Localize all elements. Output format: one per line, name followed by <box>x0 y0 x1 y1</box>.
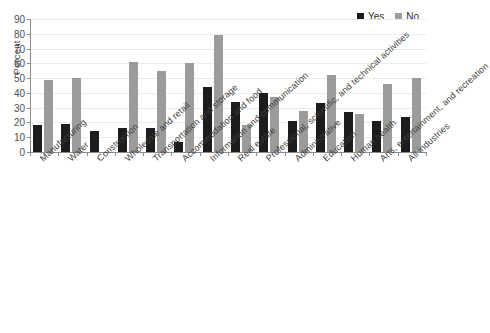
y-axis-tick-label: 0 <box>19 147 25 158</box>
y-axis-tick-label: 90 <box>14 14 25 25</box>
bar-no <box>412 78 421 152</box>
bar-no <box>44 80 53 152</box>
bar-group <box>87 19 115 152</box>
y-axis-tick-mark <box>27 93 31 94</box>
y-axis-tick-label: 70 <box>14 43 25 54</box>
bar-no <box>129 62 138 152</box>
y-axis-tick-mark <box>27 137 31 138</box>
y-axis-tick-label: 40 <box>14 87 25 98</box>
y-axis-tick-label: 50 <box>14 73 25 84</box>
y-axis-tick-label: 10 <box>14 132 25 143</box>
bar-no <box>72 78 81 152</box>
y-axis-tick-label: 30 <box>14 102 25 113</box>
bar-yes <box>33 125 42 152</box>
y-axis-tick-label: 80 <box>14 28 25 39</box>
y-axis-tick-mark <box>27 19 31 20</box>
bar-yes <box>90 131 99 152</box>
bar-no <box>327 75 336 152</box>
bar-group <box>30 19 58 152</box>
y-axis-tick-label: 60 <box>14 58 25 69</box>
y-axis-tick-mark <box>27 78 31 79</box>
y-axis-tick-mark <box>27 122 31 123</box>
x-axis-category-labels: ManufacturingWaterConstructionWholesale … <box>30 156 428 326</box>
y-axis-tick-label: 20 <box>14 117 25 128</box>
y-axis-tick-mark <box>27 34 31 35</box>
y-axis-tick-mark <box>27 49 31 50</box>
y-axis-tick-mark <box>27 63 31 64</box>
bar-no <box>157 71 166 152</box>
y-axis-tick-mark <box>27 108 31 109</box>
